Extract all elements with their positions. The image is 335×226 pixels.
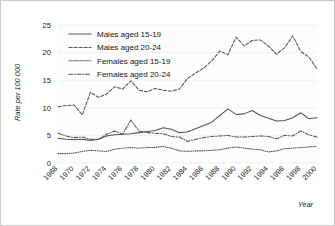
line-chart: 0510152025 19681970197219741976197819801… (1, 1, 335, 226)
x-tick-label: 1974 (90, 164, 108, 182)
x-tick-label: 1976 (106, 164, 124, 182)
x-axis-ticks: 1968197019721974197619781980198219841986… (41, 164, 318, 182)
y-tick-label: 10 (43, 104, 51, 113)
x-tick-label: 2000 (300, 164, 318, 182)
x-tick-label: 1994 (252, 164, 270, 182)
x-tick-label: 1970 (58, 164, 76, 182)
x-tick-label: 1990 (219, 164, 237, 182)
y-tick-label: 25 (43, 21, 51, 30)
x-tick-label: 1984 (171, 164, 189, 182)
legend-label-2: Females aged 15-19 (97, 57, 171, 66)
legend-label-3: Females aged 20-24 (97, 70, 171, 79)
x-tick-label: 1998 (284, 164, 302, 182)
x-tick-label: 1982 (155, 164, 173, 182)
x-axis-title: Year (298, 200, 314, 209)
x-tick-label: 1972 (74, 164, 92, 182)
x-tick-label: 1980 (139, 164, 157, 182)
x-tick-label: 1986 (187, 164, 205, 182)
x-tick-label: 1968 (41, 164, 59, 182)
legend-label-1: Males aged 20-24 (97, 43, 162, 52)
chart-figure: 0510152025 19681970197219741976197819801… (0, 0, 335, 226)
x-tick-label: 1992 (236, 164, 254, 182)
x-tick-label: 1978 (122, 164, 140, 182)
x-tick-label: 1988 (203, 164, 221, 182)
y-tick-label: 20 (43, 48, 51, 57)
y-axis-title: Rate per 100 000 (13, 63, 22, 121)
y-axis-ticks: 0510152025 (43, 21, 51, 168)
legend-label-0: Males aged 15-19 (97, 30, 162, 39)
y-tick-label: 15 (43, 76, 51, 85)
x-tick-label: 1996 (268, 164, 286, 182)
y-tick-label: 5 (47, 131, 51, 140)
